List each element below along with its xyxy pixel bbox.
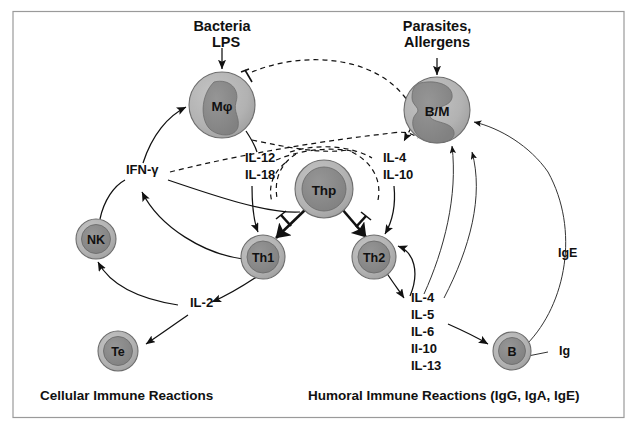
arrow-th1-to-ifng	[142, 192, 243, 259]
cell-label-b: B	[507, 345, 516, 359]
arrow-cytokines-to-bcell	[448, 324, 488, 344]
arrow-ige-to-bm	[474, 122, 566, 344]
stimulus-bacteria-line1: Bacteria	[193, 18, 251, 34]
stimulus-bacteria-line2: LPS	[212, 34, 241, 50]
cell-label-th1: Th1	[252, 251, 274, 265]
inhibition-bar-th1-branch	[276, 211, 291, 226]
cytokine-label-il12: IL-12	[245, 150, 275, 165]
arrow-cytokines-to-bm-2	[444, 152, 476, 298]
cell-te: Te	[98, 331, 138, 371]
th2-cytokine-4: IL-13	[411, 358, 441, 373]
cell-nk: NK	[76, 219, 116, 259]
immune-response-diagram: Mφ B/M Thp Th1 Th2 N	[0, 0, 638, 442]
caption-humoral: Humoral Immune Reactions (IgG, IgA, IgE)	[308, 388, 580, 403]
cell-bm: B/M	[404, 77, 470, 143]
label-ig: Ig	[559, 344, 570, 358]
cell-label-bm: B/M	[425, 104, 450, 119]
arrow-cytokines-to-bm-1	[424, 146, 453, 294]
cell-label-te: Te	[111, 345, 125, 359]
arrow-ifng-to-macrophage	[143, 107, 186, 163]
arrow-il4-autocrine-th2	[398, 246, 415, 296]
label-ige: IgE	[558, 246, 577, 260]
cytokine-label-il18: IL-18	[245, 167, 275, 182]
dashed-bm-inhibit-macrophage	[252, 60, 412, 128]
th2-cytokine-1: IL-5	[411, 307, 434, 322]
cell-label-th2: Th2	[363, 251, 385, 265]
cell-label-macrophage: Mφ	[212, 99, 233, 114]
line-nk-to-ifng	[100, 180, 125, 219]
dashed-arc-left-down	[276, 154, 296, 198]
arrow-il12-to-th1	[252, 186, 258, 232]
cell-thp: Thp	[295, 160, 353, 218]
arrow-il2-to-te	[146, 315, 188, 344]
cytokine-label-il10-top: IL-10	[383, 167, 413, 182]
arrow-il2-to-nk	[98, 262, 178, 305]
cell-label-nk: NK	[87, 233, 105, 247]
line-ifng-right-sweep	[168, 180, 300, 212]
cell-label-thp: Thp	[312, 183, 337, 198]
figure-canvas: Mφ B/M Thp Th1 Th2 N	[0, 0, 638, 442]
th2-cytokine-0: IL-4	[411, 290, 435, 305]
cell-layer: Mφ B/M Thp Th1 Th2 N	[76, 72, 531, 371]
th2-cytokine-stack: IL-4 IL-5 IL-6 Il-10 IL-13	[411, 290, 441, 373]
caption-cellular: Cellular Immune Reactions	[40, 388, 213, 403]
cytokine-label-il2: IL-2	[190, 295, 213, 310]
stimulus-parasites-line1: Parasites,	[403, 18, 472, 34]
cell-b: B	[493, 332, 531, 370]
arrow-thp-to-th1	[276, 209, 306, 238]
dashed-arc-right-down	[352, 152, 379, 200]
dashed-arrow-into-il4	[404, 128, 411, 141]
cell-th1: Th1	[241, 235, 285, 279]
line-macrophage-to-il12	[246, 131, 257, 152]
stimulus-parasites-line2: Allergens	[404, 34, 470, 50]
dashed-ifng-inhibit-bm	[170, 133, 392, 172]
cytokine-label-il4-top: IL-4	[383, 150, 407, 165]
cell-th2: Th2	[352, 235, 396, 279]
cytokine-label-ifn-gamma: IFN-γ	[126, 162, 159, 177]
th2-cytokine-3: Il-10	[411, 341, 437, 356]
inhibition-bar-th2-branch	[356, 212, 371, 227]
cell-macrophage: Mφ	[189, 72, 255, 138]
th2-cytokine-2: IL-6	[411, 324, 434, 339]
arrow-il4-to-th2	[385, 186, 395, 234]
arrow-th2-to-cytokines	[386, 272, 404, 298]
arrow-th1-to-il2	[212, 276, 258, 302]
